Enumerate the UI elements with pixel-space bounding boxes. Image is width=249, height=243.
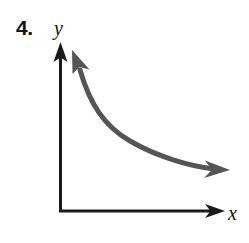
y-axis-label: y (54, 18, 63, 38)
decreasing-curve (80, 70, 216, 169)
problem-number-label: 4. (16, 17, 33, 38)
graph-canvas (0, 0, 249, 243)
graph-figure: 4. y x (0, 0, 249, 243)
x-axis-label: x (228, 203, 237, 223)
